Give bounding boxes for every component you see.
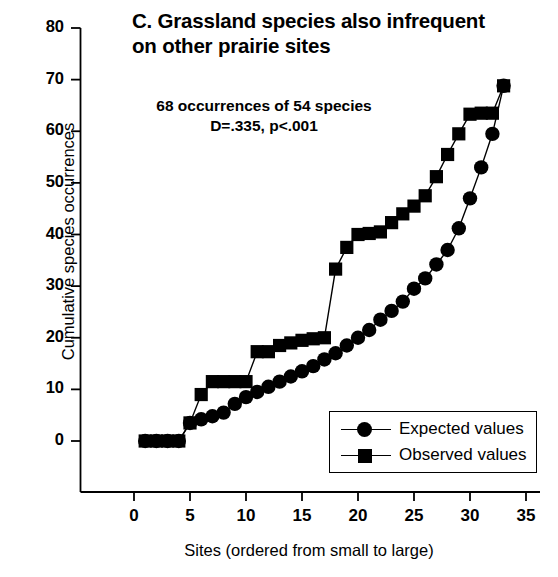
data-point-circle [418,271,432,285]
data-point-circle [485,127,499,141]
x-axis-label: Sites (ordered from small to large) [80,541,538,560]
annotation-line-2: D=.335, p<.001 [128,116,400,136]
y-tick-label: 80 [18,17,64,36]
x-tick-label: 35 [504,506,548,526]
x-axis-ticks [134,492,526,501]
circle-marker-icon [357,422,372,437]
data-point-square [486,107,499,120]
chart-title-line-2: on other prairie sites [132,33,552,58]
data-point-circle [463,191,477,205]
x-tick-label: 5 [168,506,212,526]
plot-canvas [0,0,558,577]
data-point-circle [474,160,488,174]
x-tick-label: 10 [224,506,268,526]
x-tick-label: 0 [112,506,156,526]
data-point-circle [373,312,387,326]
data-point-circle [429,257,443,271]
data-point-square [195,388,208,401]
y-tick-label: 30 [18,275,64,294]
data-point-circle [362,323,376,337]
data-point-circle [440,243,454,257]
data-point-square [419,189,432,202]
square-marker-icon [358,449,372,463]
y-tick-label: 0 [18,430,64,449]
y-tick-label: 60 [18,120,64,139]
data-point-square [329,262,342,275]
y-tick-label: 50 [18,172,64,191]
legend-item-observed-values: Observed values [339,442,527,468]
data-point-circle [384,304,398,318]
chart-annotation: 68 occurrences of 54 species D=.335, p<.… [128,96,400,135]
data-point-circle [396,294,410,308]
legend-key-square-icon [339,444,393,466]
x-tick-label: 20 [336,506,380,526]
y-tick-label: 70 [18,69,64,88]
data-point-square [452,127,465,140]
series-line [145,86,503,441]
data-point-circle [407,282,421,296]
data-point-square [172,434,185,447]
data-point-square [497,79,510,92]
data-point-square [183,416,196,429]
chart-legend: Expected values Observed values [329,411,537,473]
legend-key-circle-icon [339,418,393,440]
chart-title-line-1: C. Grassland species also infrequent [132,8,552,33]
x-tick-label: 15 [280,506,324,526]
data-point-square [430,170,443,183]
y-tick-label: 40 [18,224,64,243]
data-point-square [318,331,331,344]
y-tick-label: 20 [18,327,64,346]
data-point-square [340,241,353,254]
data-point-circle [452,221,466,235]
x-tick-label: 30 [448,506,492,526]
data-point-circle [216,405,230,419]
annotation-line-1: 68 occurrences of 54 species [128,96,400,116]
data-point-square [239,375,252,388]
legend-label-observed: Observed values [399,445,527,465]
chart-title: C. Grassland species also infrequent on … [132,8,552,58]
x-tick-label: 25 [392,506,436,526]
y-tick-label: 10 [18,378,64,397]
data-point-square [441,148,454,161]
series-line [145,86,503,441]
chart-figure: C. Grassland species also infrequent on … [0,0,558,577]
legend-label-expected: Expected values [399,419,524,439]
legend-item-expected-values: Expected values [339,416,524,442]
